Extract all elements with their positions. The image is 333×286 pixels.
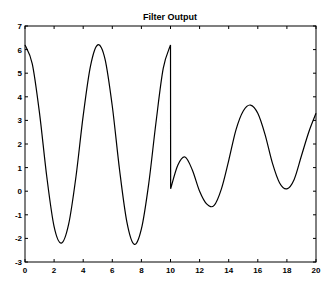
x-tick-label: 14 <box>224 266 233 275</box>
y-tick-label: 2 <box>18 140 23 149</box>
x-tick-label: 16 <box>253 266 262 275</box>
chart-title: Filter Output <box>143 12 197 22</box>
x-tick-label: 8 <box>139 266 144 275</box>
x-tick-label: 6 <box>110 266 115 275</box>
x-tick-label: 0 <box>23 266 28 275</box>
y-tick-label: -3 <box>15 258 23 267</box>
y-tick-label: 7 <box>18 22 23 31</box>
y-tick-label: 1 <box>18 164 23 173</box>
y-tick-label: 4 <box>18 93 23 102</box>
x-tick-label: 20 <box>312 266 321 275</box>
y-tick-label: -1 <box>15 211 23 220</box>
x-axis: 02468101214161820 <box>23 26 321 275</box>
x-tick-label: 12 <box>195 266 204 275</box>
data-line <box>25 45 316 245</box>
x-tick-label: 2 <box>52 266 57 275</box>
y-tick-label: 3 <box>18 116 23 125</box>
y-tick-label: 0 <box>18 187 23 196</box>
y-tick-label: 6 <box>18 46 23 55</box>
x-tick-label: 10 <box>166 266 175 275</box>
x-tick-label: 4 <box>81 266 86 275</box>
y-tick-label: -2 <box>15 234 23 243</box>
x-tick-label: 18 <box>282 266 291 275</box>
chart: Filter Output 02468101214161820 -3-2-101… <box>0 0 333 286</box>
y-tick-label: 5 <box>18 69 23 78</box>
